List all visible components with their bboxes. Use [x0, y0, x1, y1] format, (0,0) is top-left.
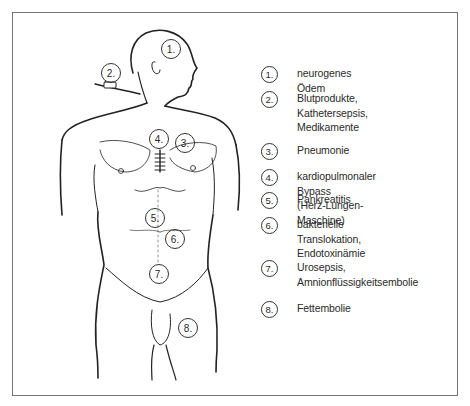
legend-item-2: 2. Blutprodukte, Kathetersepsis, Medikam…	[261, 91, 368, 135]
marker-2: 2.	[101, 63, 121, 83]
legend-text: Urosepsis, Amnionflüssigkeitsembolie	[297, 260, 418, 289]
marker-4: 4.	[149, 129, 169, 149]
legend-item-3: 3. Pneumonie	[261, 143, 349, 160]
legend-item-5: 5. Pankreatitis	[261, 192, 351, 209]
legend-number: 6.	[261, 217, 278, 234]
legend-number: 4.	[261, 169, 278, 186]
legend-text: Blutprodukte, Kathetersepsis, Medikament…	[297, 91, 368, 135]
legend-item-6: 6. bakterielle Translokation, Endotoxinä…	[261, 217, 365, 261]
marker-5: 5.	[145, 208, 165, 228]
legend-number: 7.	[261, 260, 278, 277]
legend-text: Fettembolie	[297, 301, 351, 316]
marker-8: 8.	[178, 318, 198, 338]
marker-6: 6.	[165, 229, 185, 249]
legend-item-7: 7. Urosepsis, Amnionflüssigkeitsembolie	[261, 260, 418, 289]
legend-text: Pankreatitis	[297, 192, 351, 207]
marker-7: 7.	[149, 264, 169, 284]
legend-text: Pneumonie	[297, 143, 349, 158]
marker-3: 3.	[175, 133, 195, 153]
legend-text: bakterielle Translokation, Endotoxinämie	[297, 217, 365, 261]
body-illustration	[0, 0, 470, 406]
legend-number: 1.	[261, 66, 278, 83]
legend-item-8: 8. Fettembolie	[261, 301, 351, 318]
legend-number: 3.	[261, 143, 278, 160]
marker-1: 1.	[161, 39, 181, 59]
legend-number: 8.	[261, 301, 278, 318]
legend-number: 2.	[261, 91, 278, 108]
legend-number: 5.	[261, 192, 278, 209]
